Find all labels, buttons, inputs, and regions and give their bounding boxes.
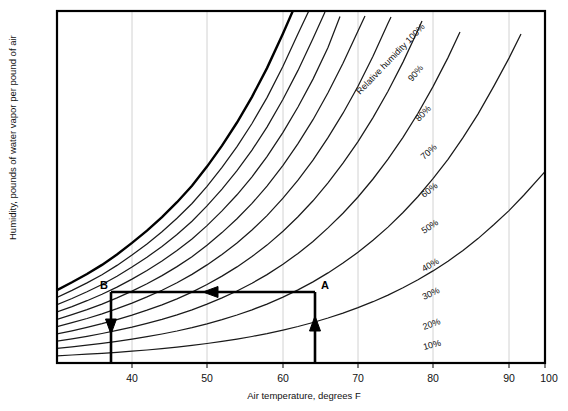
- chart-background: [0, 0, 568, 411]
- psychrometric-chart: 40 50 60 70 80 90 100 Air temperature, d…: [0, 0, 568, 411]
- point-label-a: A: [321, 279, 329, 291]
- xtick-label-90: 90: [503, 372, 515, 384]
- xtick-label-40: 40: [126, 372, 138, 384]
- xtick-label-50: 50: [201, 372, 213, 384]
- xtick-label-80: 80: [427, 372, 439, 384]
- xtick-label-100: 100: [540, 372, 558, 384]
- point-label-b: B: [100, 279, 108, 291]
- y-axis-title: Humidity, pounds of water vapor per poun…: [7, 35, 18, 240]
- chart-svg: 40 50 60 70 80 90 100 Air temperature, d…: [0, 0, 568, 411]
- xtick-label-70: 70: [352, 372, 364, 384]
- x-axis-title: Air temperature, degrees F: [247, 390, 361, 401]
- xtick-label-60: 60: [277, 372, 289, 384]
